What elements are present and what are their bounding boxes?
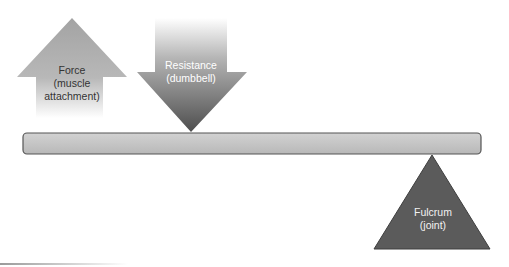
bottom-divider: [0, 263, 128, 265]
resistance-label-line2: (dumbbell): [150, 72, 232, 85]
force-label-line3: attachment): [32, 90, 112, 103]
force-label: Force (muscle attachment): [32, 64, 112, 103]
lever-bar: [23, 133, 481, 154]
fulcrum-label: Fulcrum (joint): [398, 206, 468, 232]
resistance-label: Resistance (dumbbell): [150, 59, 232, 85]
fulcrum-triangle-icon: [374, 155, 490, 249]
fulcrum-label-line2: (joint): [398, 219, 468, 232]
resistance-label-line1: Resistance: [150, 59, 232, 72]
fulcrum-label-line1: Fulcrum: [398, 206, 468, 219]
force-label-line2: (muscle: [32, 77, 112, 90]
force-label-line1: Force: [32, 64, 112, 77]
